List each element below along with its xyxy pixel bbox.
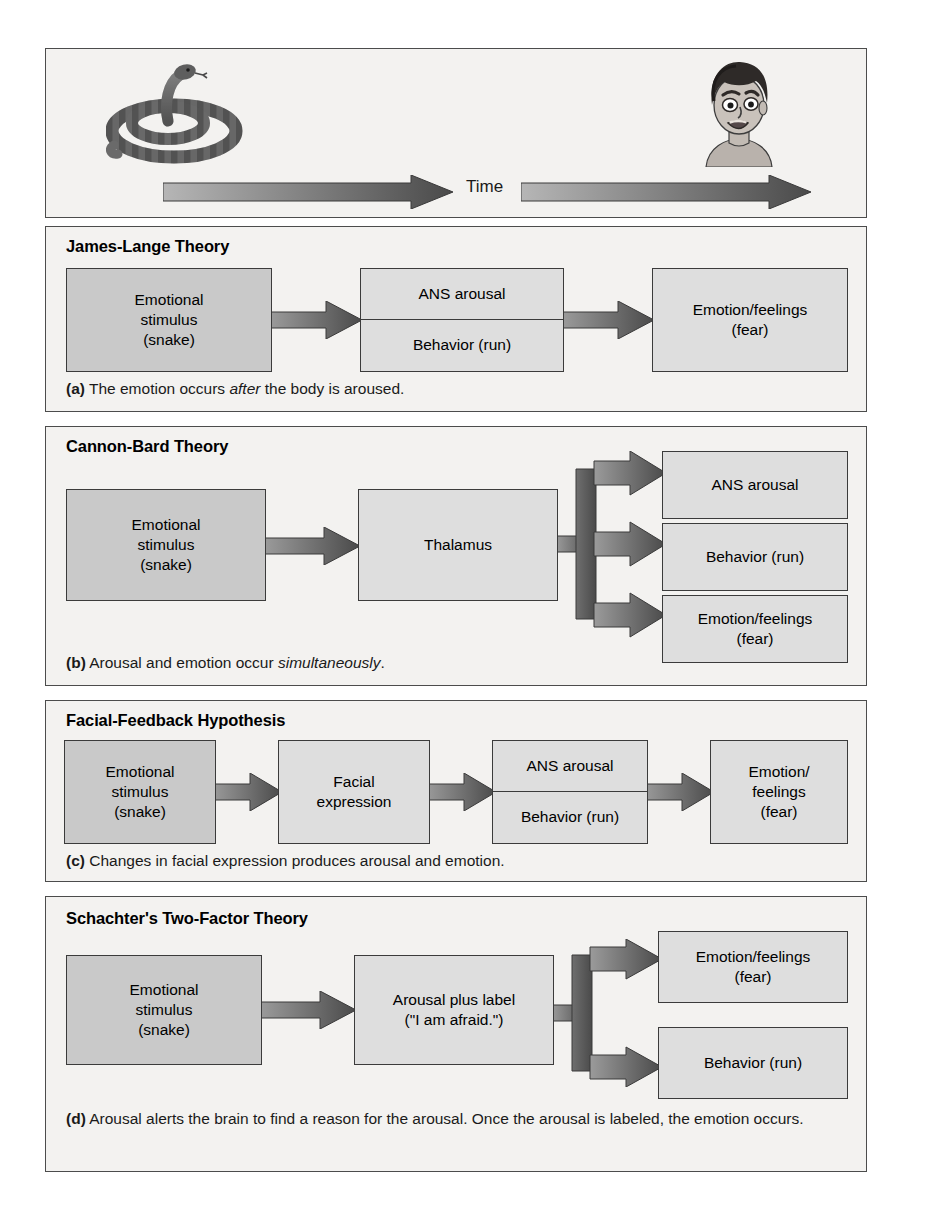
- frightened-face-illustration: [692, 55, 786, 167]
- box-behavior: Behavior (run): [662, 523, 848, 591]
- box-line: (fear): [731, 320, 768, 340]
- box-line: Emotional: [132, 515, 201, 535]
- box-line: Facial: [333, 772, 374, 792]
- arrow-arousal-branch: [552, 939, 662, 1087]
- box-line: ANS arousal: [418, 284, 505, 304]
- caption-emphasis: simultaneously: [278, 654, 381, 671]
- caption-marker: (d): [66, 1110, 86, 1127]
- box-line: stimulus: [112, 782, 169, 802]
- box-line: (snake): [140, 555, 192, 575]
- caption-post: the body is aroused.: [260, 380, 404, 397]
- box-line: feelings: [752, 782, 805, 802]
- box-line: Emotional: [135, 290, 204, 310]
- panel-title-facial-feedback: Facial-Feedback Hypothesis: [66, 711, 285, 730]
- box-line: Emotion/: [748, 762, 809, 782]
- box-line: (fear): [760, 802, 797, 822]
- panel-title-james-lange: James-Lange Theory: [66, 237, 229, 256]
- box-line: (snake): [143, 330, 195, 350]
- box-emotion-feelings: Emotion/feelings (fear): [662, 595, 848, 663]
- box-facial-expression: Facial expression: [278, 740, 430, 844]
- box-thalamus: Thalamus: [358, 489, 558, 601]
- caption-marker: (a): [66, 380, 85, 397]
- panel-cannon-bard: Cannon-Bard Theory Emotional stimulus (s…: [45, 426, 867, 686]
- box-emotional-stimulus: Emotional stimulus (snake): [66, 489, 266, 601]
- caption-emphasis: after: [229, 380, 260, 397]
- box-line: (fear): [734, 967, 771, 987]
- box-ans-arousal-behavior: ANS arousal Behavior (run): [360, 268, 564, 372]
- arrow-stimulus-to-arousal: [270, 301, 362, 339]
- box-line: Behavior (run): [521, 807, 619, 827]
- box-line: Emotional: [130, 980, 199, 1000]
- box-line: (fear): [736, 629, 773, 649]
- caption-pre: Changes in facial expression produces ar…: [85, 852, 505, 869]
- caption-pre: The emotion occurs: [85, 380, 229, 397]
- box-line: stimulus: [141, 310, 198, 330]
- arrow-facial-to-arousal: [426, 773, 496, 811]
- panel-timeline: Time: [45, 48, 867, 218]
- box-line: (snake): [138, 1020, 190, 1040]
- box-line: ANS arousal: [711, 475, 798, 495]
- box-line: ("I am afraid."): [405, 1010, 504, 1030]
- box-line: Emotion/feelings: [698, 609, 813, 629]
- box-line: (snake): [114, 802, 166, 822]
- box-line: Thalamus: [424, 535, 492, 555]
- box-behavior: Behavior (run): [658, 1027, 848, 1099]
- arrow-stimulus-to-arousal-label: [260, 991, 356, 1029]
- box-ans-arousal: ANS arousal: [662, 451, 848, 519]
- panel-james-lange: James-Lange Theory Emotional stimulus (s…: [45, 226, 867, 412]
- box-ans-arousal-behavior: ANS arousal Behavior (run): [492, 740, 648, 844]
- caption-d: (d) Arousal alerts the brain to find a r…: [66, 1109, 832, 1130]
- box-line: ANS arousal: [526, 756, 613, 776]
- box-line: Behavior (run): [706, 547, 804, 567]
- caption-pre: Arousal and emotion occur: [86, 654, 278, 671]
- box-line: Behavior (run): [413, 335, 511, 355]
- arrow-arousal-to-emotion: [644, 773, 714, 811]
- panel-facial-feedback: Facial-Feedback Hypothesis Emotional sti…: [45, 700, 867, 882]
- box-line: Emotion/feelings: [696, 947, 811, 967]
- arrow-thalamus-branch: [556, 451, 666, 641]
- panel-title-schachter: Schachter's Two-Factor Theory: [66, 909, 308, 928]
- box-line: stimulus: [138, 535, 195, 555]
- caption-pre: Arousal alerts the brain to find a reaso…: [86, 1110, 804, 1127]
- box-emotional-stimulus: Emotional stimulus (snake): [64, 740, 216, 844]
- snake-illustration: [106, 59, 246, 164]
- box-line: Behavior (run): [704, 1053, 802, 1073]
- box-line: expression: [317, 792, 392, 812]
- caption-a: (a) The emotion occurs after the body is…: [66, 379, 846, 400]
- box-line: Emotion/feelings: [693, 300, 808, 320]
- caption-marker: (b): [66, 654, 86, 671]
- box-arousal-plus-label: Arousal plus label ("I am afraid."): [354, 955, 554, 1065]
- box-emotional-stimulus: Emotional stimulus (snake): [66, 268, 272, 372]
- time-arrow-left: [163, 175, 453, 213]
- arrow-stimulus-to-facial: [212, 773, 282, 811]
- box-emotion-feelings: Emotion/feelings (fear): [652, 268, 848, 372]
- arrow-arousal-to-emotion: [562, 301, 654, 339]
- caption-marker: (c): [66, 852, 85, 869]
- box-emotional-stimulus: Emotional stimulus (snake): [66, 955, 262, 1065]
- time-arrow-right: [521, 175, 811, 213]
- caption-c: (c) Changes in facial expression produce…: [66, 851, 846, 872]
- arrow-stimulus-to-thalamus: [264, 527, 360, 565]
- box-emotion-feelings: Emotion/ feelings (fear): [710, 740, 848, 844]
- box-line: stimulus: [136, 1000, 193, 1020]
- box-emotion-feelings: Emotion/feelings (fear): [658, 931, 848, 1003]
- box-line: Emotional: [106, 762, 175, 782]
- panel-title-cannon-bard: Cannon-Bard Theory: [66, 437, 228, 456]
- box-line: Arousal plus label: [393, 990, 515, 1010]
- time-label: Time: [466, 177, 503, 197]
- caption-post: .: [380, 654, 384, 671]
- panel-schachter: Schachter's Two-Factor Theory Emotional …: [45, 896, 867, 1172]
- emotion-theories-figure: Time James-Lange Theory Emotional stimul…: [45, 48, 869, 1172]
